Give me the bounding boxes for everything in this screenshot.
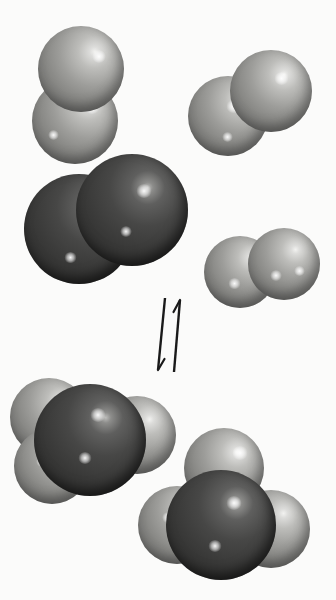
- equilibrium-arrow: [152, 296, 188, 374]
- molecule-n2-middle-left: [24, 154, 188, 288]
- molecule-h2-top-left: [28, 26, 128, 158]
- specular-highlight: [78, 452, 92, 464]
- atom-hydrogen: [248, 228, 320, 300]
- atom-nitrogen: [34, 384, 146, 496]
- atom-hydrogen: [230, 50, 312, 132]
- specular-highlight: [222, 132, 233, 142]
- specular-highlight: [90, 408, 106, 422]
- specular-highlight: [270, 270, 282, 281]
- specular-highlight: [228, 278, 241, 289]
- specular-highlight: [120, 226, 132, 237]
- molecule-nh3-bottom-right: [138, 428, 314, 578]
- molecule-h2-top-right: [188, 50, 314, 160]
- molecular-equilibrium-figure: [0, 0, 336, 600]
- specular-highlight: [294, 266, 305, 276]
- specular-highlight: [92, 50, 106, 63]
- specular-highlight: [136, 184, 152, 198]
- specular-highlight: [64, 252, 77, 263]
- atom-nitrogen: [76, 154, 188, 266]
- specular-highlight: [48, 130, 59, 140]
- specular-highlight: [232, 446, 248, 460]
- specular-highlight: [274, 72, 289, 85]
- molecule-h2-middle-right: [204, 228, 320, 300]
- specular-highlight: [226, 496, 242, 510]
- specular-highlight: [208, 540, 222, 552]
- atom-hydrogen: [38, 26, 124, 112]
- atom-nitrogen: [166, 470, 276, 580]
